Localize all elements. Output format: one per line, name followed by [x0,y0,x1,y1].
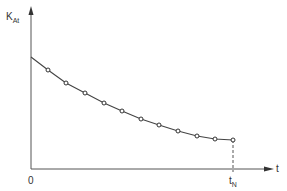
data-point-marker [102,101,106,105]
y-axis-label: KAt [6,12,19,22]
x-axis-label: t [276,164,279,174]
data-series [31,57,235,142]
data-point-marker [213,137,217,141]
data-point-marker [120,109,124,113]
x-tick-origin: 0 [28,176,34,186]
data-point-marker [139,117,143,121]
x-axis-arrow-icon [264,167,274,172]
y-axis-arrow-icon [29,6,34,15]
data-point-marker [176,129,180,133]
y-label-main: K [6,11,13,22]
x-tick-tn: tN [229,176,237,186]
data-point-marker [231,138,235,142]
data-point-marker [83,91,87,95]
series-line [31,57,233,140]
x-tick-tn-sub: N [232,181,237,188]
data-point-marker [195,134,199,138]
decay-chart [0,0,287,191]
data-point-marker [64,81,68,85]
data-point-marker [157,123,161,127]
data-point-marker [46,68,50,72]
y-label-sub: At [13,17,20,24]
